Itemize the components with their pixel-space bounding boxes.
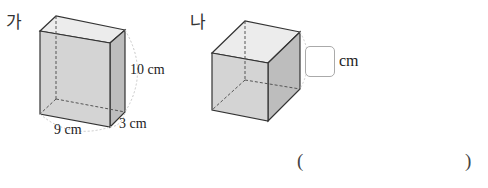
edge-length-blank[interactable]: [305, 46, 335, 77]
height-dimension-label: 10 cm: [130, 62, 165, 78]
rectangular-prism-figure: [40, 16, 138, 131]
cube-figure: [212, 21, 308, 121]
answer-field[interactable]: [310, 150, 460, 174]
answer-close-paren: ): [465, 150, 471, 172]
depth-dimension-label: 3 cm: [119, 116, 147, 132]
answer-open-paren: (: [297, 150, 303, 172]
edge-length-unit: cm: [339, 52, 359, 70]
width-dimension-label: 9 cm: [54, 122, 82, 138]
